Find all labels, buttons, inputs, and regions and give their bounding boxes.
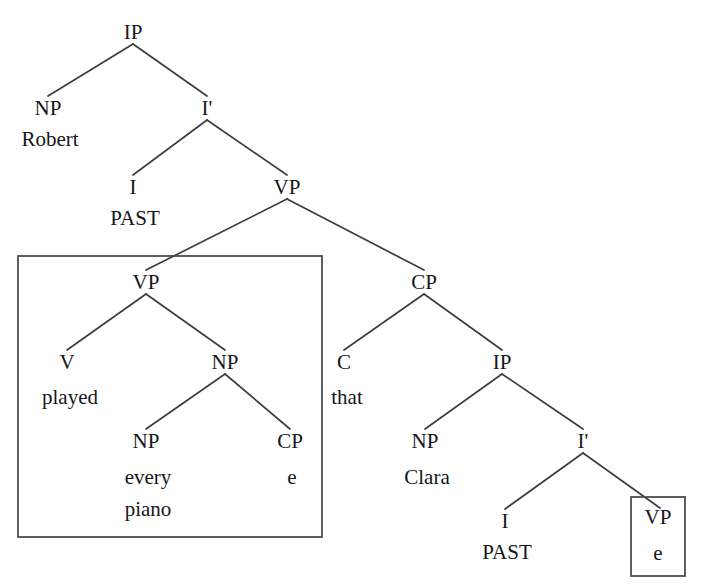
tree-edge-cp-relative-to-ip-embedded [424,294,502,350]
node-ibar-main: I' [202,98,213,119]
node-np-clara: NP [412,431,439,452]
tree-edge-ibar-embedded-to-vp-elided [583,453,660,508]
terminal-past-main: PAST [110,208,159,229]
node-ibar-embedded: I' [578,431,589,452]
tree-edge-ibar-embedded-to-i [505,453,583,509]
terminal-cp-empty-e: e [287,467,296,488]
tree-edge-ibar-to-i [133,120,207,175]
syntax-tree-canvas [0,0,701,588]
node-ip-embedded: IP [493,352,512,373]
node-ip-root: IP [124,22,143,43]
terminal-vp-elided-e: e [653,543,662,564]
node-c-that: C [337,352,351,373]
tree-edge-vp-inner-to-np-object [146,294,225,350]
terminal-piano: piano [125,499,172,520]
node-i-embedded: I [502,511,509,532]
tree-edge-vp-inner-to-v [67,294,146,350]
node-np-subject: NP [35,98,62,119]
tree-box-group [18,256,685,576]
node-i-main: I [130,177,137,198]
tree-edge-np-object-to-np-every-piano [146,374,225,429]
tree-edge-ip-embedded-to-np-clara [425,374,502,429]
node-v-played: V [59,352,74,373]
terminal-every: every [125,467,172,488]
tree-edge-np-object-to-cp-empty [225,374,290,429]
tree-edge-vp-upper-to-vp-inner [146,199,287,270]
tree-edge-ip-to-np-subject [48,44,133,96]
node-np-every-piano: NP [133,431,160,452]
node-vp-upper: VP [274,177,301,198]
tree-edge-ibar-to-vp-upper [207,120,287,175]
terminal-played: played [42,387,98,408]
terminal-robert: Robert [21,129,78,150]
tree-edge-ip-embedded-to-ibar-embedded [502,374,583,429]
node-vp-inner: VP [133,272,160,293]
tree-edge-ip-to-ibar [133,44,207,96]
node-np-object: NP [212,352,239,373]
tree-edge-vp-upper-to-cp-relative [287,199,424,270]
tree-edge-cp-relative-to-c [344,294,424,350]
terminal-clara: Clara [404,467,449,488]
node-cp-relative: CP [411,272,437,293]
node-cp-empty: CP [277,431,303,452]
terminal-past-embedded: PAST [482,542,531,563]
node-vp-elided: VP [645,507,672,528]
terminal-that: that [331,387,363,408]
